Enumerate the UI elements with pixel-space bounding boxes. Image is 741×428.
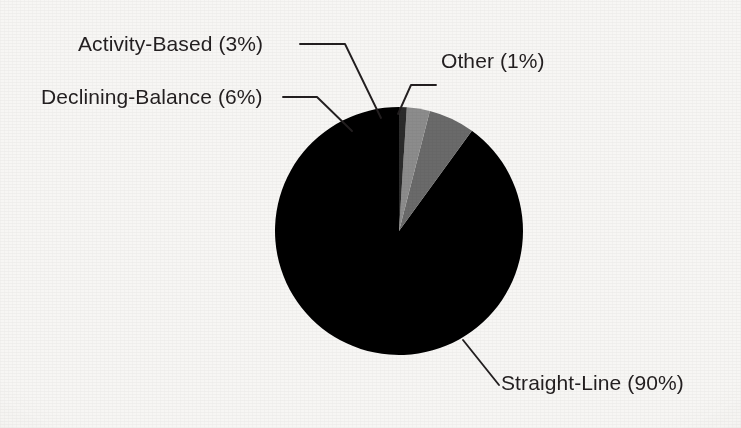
- pie-chart-canvas: [0, 0, 741, 428]
- slice-label-activity-based: Activity-Based (3%): [78, 33, 263, 54]
- slice-label-declining-balance: Declining-Balance (6%): [41, 86, 263, 107]
- slice-label-other: Other (1%): [441, 50, 545, 71]
- leader-line-activity-based: [300, 44, 381, 118]
- pie-slices-group: [275, 107, 523, 355]
- leader-line-straight-line: [463, 340, 499, 385]
- slice-label-straight-line: Straight-Line (90%): [501, 372, 684, 393]
- pie-chart-figure: Activity-Based (3%) Declining-Balance (6…: [0, 0, 741, 428]
